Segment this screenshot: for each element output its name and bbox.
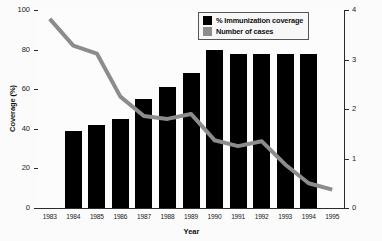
y-tick-label-60: 60	[4, 85, 30, 93]
y2-tick-mark-1	[345, 159, 349, 160]
y2-tick-label-0: 0	[352, 204, 372, 212]
y2-tick-mark-4	[345, 10, 349, 11]
y2-tick-mark-3	[345, 60, 349, 61]
legend-swatch-cases	[203, 27, 212, 36]
legend-swatch-immunization	[203, 16, 212, 25]
y2-tick-mark-2	[345, 109, 349, 110]
y2-tick-label-1: 1	[352, 155, 372, 163]
y-tick-mark-0	[34, 208, 38, 209]
x-tick-label-1995: 1995	[317, 213, 347, 221]
x-axis-title: Year	[38, 227, 345, 236]
legend-item-cases: Number of cases	[203, 27, 303, 36]
y-tick-label-0: 0	[4, 204, 30, 212]
y2-tick-mark-0	[345, 208, 349, 209]
chart-legend: % Immunization coverage Number of cases	[198, 12, 309, 40]
legend-label-cases: Number of cases	[216, 27, 273, 36]
y-tick-label-80: 80	[4, 46, 30, 54]
y2-tick-label-2: 2	[352, 105, 372, 113]
y-tick-label-100: 100	[4, 6, 30, 14]
y-axis-title: Coverage (%)	[8, 64, 17, 154]
y-tick-label-20: 20	[4, 164, 30, 172]
x-axis-line	[38, 208, 345, 209]
chart-figure: Coverage (%) Year 020406080100 01234 198…	[0, 0, 382, 241]
legend-item-immunization: % Immunization coverage	[203, 16, 303, 25]
legend-label-immunization: % Immunization coverage	[216, 16, 303, 25]
y-tick-label-40: 40	[4, 125, 30, 133]
y2-tick-label-3: 3	[352, 56, 372, 64]
y2-tick-label-4: 4	[352, 6, 372, 14]
